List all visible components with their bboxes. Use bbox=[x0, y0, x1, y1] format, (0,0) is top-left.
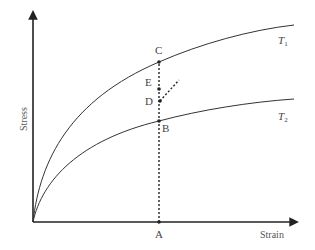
curve-t2 bbox=[33, 99, 294, 222]
label-d: D bbox=[145, 95, 153, 107]
point-e bbox=[157, 87, 161, 91]
point-a bbox=[157, 220, 161, 224]
label-a: A bbox=[155, 228, 163, 240]
label-e: E bbox=[145, 76, 152, 88]
d-diagonal-dashed-line bbox=[160, 80, 179, 101]
label-b: B bbox=[162, 122, 169, 134]
point-d bbox=[158, 99, 162, 103]
x-axis-title: Strain bbox=[260, 229, 284, 240]
label-t1: T1 bbox=[278, 34, 288, 48]
point-c bbox=[157, 60, 161, 64]
label-t2: T2 bbox=[278, 110, 288, 124]
y-axis-title: Stress bbox=[18, 107, 29, 131]
stress-strain-diagram: C E D B A T1 T2 Strain Stress bbox=[0, 0, 315, 250]
label-c: C bbox=[155, 44, 162, 56]
point-b bbox=[157, 119, 161, 123]
